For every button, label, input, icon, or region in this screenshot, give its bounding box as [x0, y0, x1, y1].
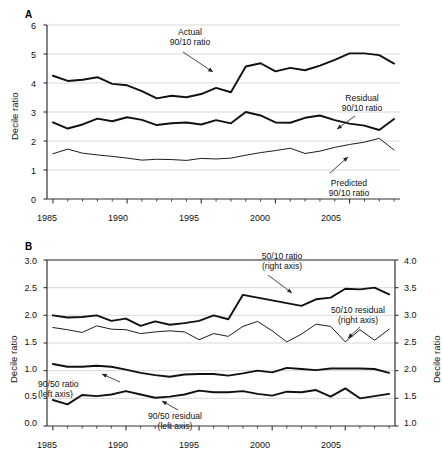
figure-two-panel-decile-ratios: A Decile ratio 0 1 2 3 4 5 6 1985 1990 1… [0, 0, 442, 469]
panel-a-ytick-4: 4 [22, 79, 36, 89]
annot-residual-5010: 50/10 residual (right axis) [312, 305, 404, 326]
panel-b-left-ytick-2: 1.0 [13, 364, 37, 374]
panel-b-right-ytick-6: 4.0 [404, 256, 430, 266]
panel-b-right-ytick-2: 2.0 [404, 364, 430, 374]
panel-a-ytick-1: 1 [22, 166, 36, 176]
panel-b-right-ytick-3: 2.5 [404, 337, 430, 347]
panel-b-xtick-2000: 2000 [240, 440, 280, 450]
annot-residual-9050-line2: (left axis) [123, 421, 227, 431]
panel-a-ytick-3: 3 [22, 108, 36, 118]
panel-b-left-ytick-4: 2.0 [13, 310, 37, 320]
panel-a-xtick-1985: 1985 [27, 213, 67, 223]
annot-residual-9050: 90/50 residual (left axis) [123, 411, 227, 432]
panel-a-y-axis-title: Decile ratio [9, 92, 20, 140]
annot-residual-9010-line2: 90/10 ratio [321, 103, 403, 113]
panel-a-ytick-2: 2 [22, 137, 36, 147]
annot-ratio-5010-line1: 50/10 ratio [240, 251, 324, 261]
panel-a-xtick-1995: 1995 [169, 213, 209, 223]
annot-actual-9010-line2: 90/10 ratio [150, 37, 230, 47]
panel-a-xtick-2005: 2005 [311, 213, 351, 223]
panel-b-left-ytick-3: 1.5 [13, 337, 37, 347]
panel-b: B Decile ratio Decile ratio 0.0 0.5 1.0 … [0, 235, 442, 469]
panel-b-xtick-1990: 1990 [98, 440, 138, 450]
panel-b-xtick-1985: 1985 [27, 440, 67, 450]
panel-a-xtick-1990: 1990 [98, 213, 138, 223]
annot-ratio-9050: 90/50 ratio (left axis) [38, 379, 122, 400]
panel-b-left-ytick-5: 2.5 [13, 283, 37, 293]
panel-a: A Decile ratio 0 1 2 3 4 5 6 1985 1990 1… [0, 0, 442, 235]
panel-b-plot [0, 235, 442, 469]
annot-residual-5010-line2: (right axis) [312, 315, 404, 325]
annot-ratio-9050-line2: (left axis) [38, 389, 122, 399]
panel-a-xtick-2000: 2000 [240, 213, 280, 223]
panel-b-left-ytick-6: 3.0 [13, 256, 37, 266]
panel-b-left-ytick-0: 0.0 [13, 418, 37, 428]
panel-b-right-ytick-5: 3.5 [404, 283, 430, 293]
annot-actual-9010: Actual 90/10 ratio [150, 27, 230, 48]
panel-a-letter: A [25, 9, 32, 20]
panel-a-ytick-6: 6 [22, 21, 36, 31]
annot-predicted-9010: Predicted 90/10 ratio [307, 178, 391, 199]
panel-b-xtick-1995: 1995 [169, 440, 209, 450]
annot-ratio-5010: 50/10 ratio (right axis) [240, 251, 324, 272]
panel-b-y-axis-title-right: Decile ratio [431, 335, 442, 383]
panel-b-right-ytick-1: 1.5 [404, 391, 430, 401]
annot-actual-9010-line1: Actual [150, 27, 230, 37]
annot-residual-9010: Residual 90/10 ratio [321, 93, 403, 114]
annot-ratio-5010-line2: (right axis) [240, 261, 324, 271]
panel-b-left-ytick-1: 0.5 [13, 391, 37, 401]
annot-residual-9010-line1: Residual [321, 93, 403, 103]
annot-predicted-9010-line2: 90/10 ratio [307, 188, 391, 198]
annot-predicted-9010-line1: Predicted [307, 178, 391, 188]
annot-ratio-9050-line1: 90/50 ratio [38, 379, 122, 389]
panel-b-right-ytick-0: 1.0 [404, 418, 430, 428]
annot-residual-5010-line1: 50/10 residual [312, 305, 404, 315]
panel-b-xtick-2005: 2005 [311, 440, 351, 450]
annot-residual-9050-line1: 90/50 residual [123, 411, 227, 421]
panel-b-right-ytick-4: 3.0 [404, 310, 430, 320]
panel-b-letter: B [25, 241, 32, 252]
panel-a-ytick-0: 0 [22, 195, 36, 205]
panel-a-ytick-5: 5 [22, 50, 36, 60]
